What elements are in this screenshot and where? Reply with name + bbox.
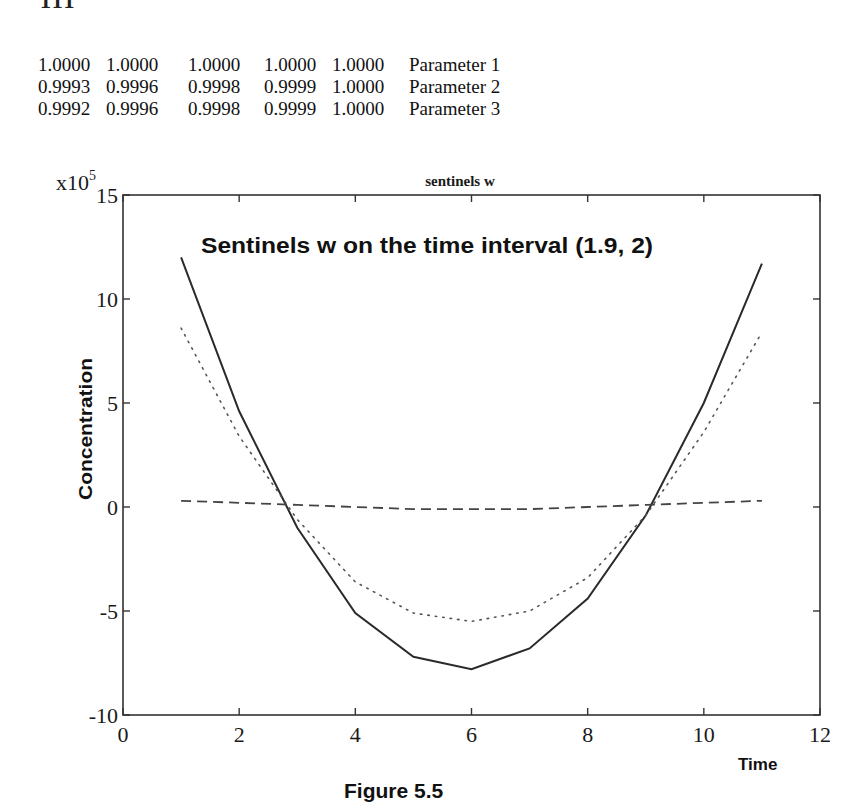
x-tick-label: 6 bbox=[466, 722, 477, 747]
y-tick-label: -5 bbox=[100, 599, 118, 624]
y-tick-label: 15 bbox=[96, 183, 118, 208]
y-tick-label: 0 bbox=[107, 495, 118, 520]
series-dotted-line bbox=[181, 328, 762, 621]
x-tick-label: 8 bbox=[582, 722, 593, 747]
axis-tick-labels: 024681012151050-5-10 bbox=[89, 183, 831, 747]
plot-frame bbox=[123, 195, 820, 715]
y-tick-label: 5 bbox=[107, 391, 118, 416]
series-dashed-line bbox=[181, 501, 762, 509]
x-tick-label: 4 bbox=[350, 722, 361, 747]
x-axis-label: Time bbox=[738, 755, 777, 774]
x-tick-label: 0 bbox=[118, 722, 129, 747]
line-chart: x105 sentinels w 024681012151050-5-10 Se… bbox=[0, 0, 864, 805]
x-tick-label: 10 bbox=[693, 722, 715, 747]
y-tick-label: -10 bbox=[89, 703, 118, 728]
y-scale-label: x105 bbox=[56, 168, 96, 195]
chart-series bbox=[181, 257, 762, 669]
figure-caption: Figure 5.5 bbox=[344, 779, 444, 802]
x-tick-label: 12 bbox=[809, 722, 831, 747]
y-tick-label: 10 bbox=[96, 287, 118, 312]
x-tick-label: 2 bbox=[234, 722, 245, 747]
chart-title: sentinels w bbox=[425, 173, 495, 189]
axis-ticks bbox=[123, 195, 820, 715]
series-solid-line bbox=[181, 257, 762, 669]
inner-title: Sentinels w on the time interval (1.9, 2… bbox=[201, 233, 653, 258]
y-axis-label: Concentration bbox=[75, 358, 96, 500]
